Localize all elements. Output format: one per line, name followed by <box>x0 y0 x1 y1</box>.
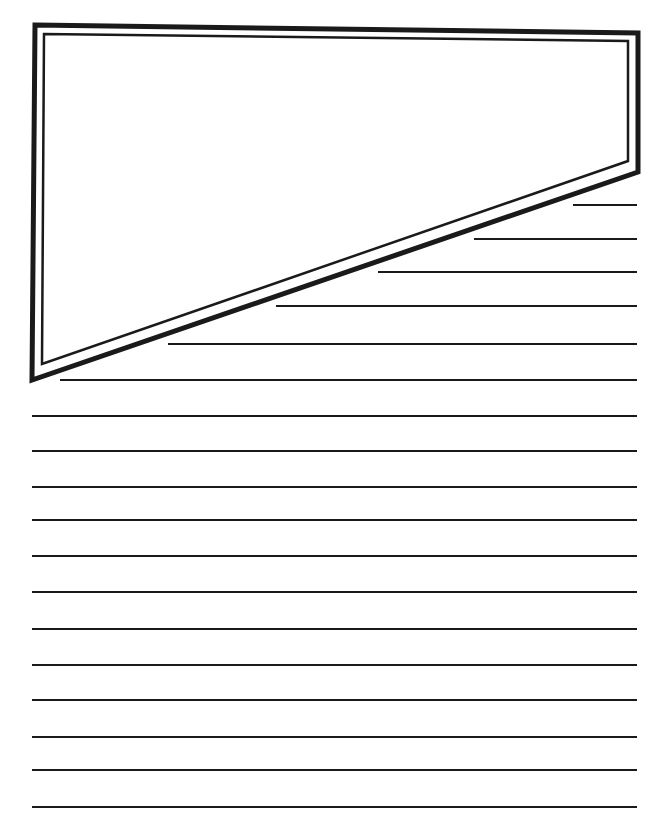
page-background <box>0 0 667 840</box>
lined-paper-sheet <box>0 0 667 840</box>
